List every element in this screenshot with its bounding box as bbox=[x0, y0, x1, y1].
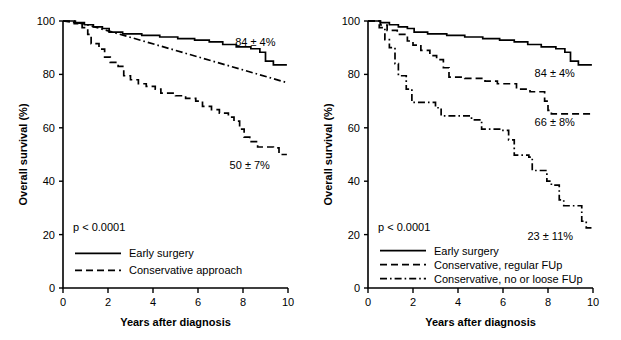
legend-label: Conservative, no or loose FUp bbox=[434, 273, 583, 285]
x-tick-label: 0 bbox=[365, 296, 371, 308]
survival-curve-0 bbox=[368, 21, 592, 65]
x-tick-label: 6 bbox=[195, 296, 201, 308]
legend: Early surgeryConservative, regular FUpCo… bbox=[380, 245, 583, 285]
legend-label: Early surgery bbox=[129, 247, 194, 259]
y-axis-title: Overall survival (%) bbox=[322, 103, 334, 205]
curve-endpoint-annotation: 50 ± 7% bbox=[230, 159, 271, 171]
y-tick-label: 100 bbox=[37, 15, 55, 27]
x-axis-title: Years after diagnosis bbox=[120, 316, 231, 328]
curve-endpoint-annotation: 66 ± 8% bbox=[535, 116, 576, 128]
y-tick-label: 0 bbox=[354, 282, 360, 294]
p-value-label: p < 0.0001 bbox=[378, 221, 430, 233]
y-axis-title: Overall survival (%) bbox=[17, 103, 29, 205]
survival-plot-right: 0204060801000246810Years after diagnosis… bbox=[310, 0, 620, 340]
y-axis-ticks: 020406080100 bbox=[342, 15, 368, 294]
curve-annotations: 84 ± 4%66 ± 8%23 ± 11% bbox=[527, 67, 575, 242]
y-tick-label: 60 bbox=[43, 122, 55, 134]
curve-annotations: 84 ± 4%50 ± 7% bbox=[230, 36, 276, 171]
y-axis-ticks: 020406080100 bbox=[37, 15, 63, 294]
y-tick-label: 100 bbox=[342, 15, 360, 27]
x-tick-label: 10 bbox=[587, 296, 599, 308]
y-tick-label: 20 bbox=[43, 229, 55, 241]
x-tick-label: 4 bbox=[455, 296, 461, 308]
legend: Early surgeryConservative approach bbox=[75, 247, 242, 276]
x-axis-title: Years after diagnosis bbox=[425, 316, 536, 328]
y-tick-label: 20 bbox=[348, 229, 360, 241]
x-tick-label: 0 bbox=[60, 296, 66, 308]
x-tick-label: 8 bbox=[545, 296, 551, 308]
curve-endpoint-annotation: 84 ± 4% bbox=[535, 67, 576, 79]
chart-panel-left: 0204060801000246810Years after diagnosis… bbox=[0, 0, 310, 340]
x-tick-label: 6 bbox=[500, 296, 506, 308]
legend-label: Early surgery bbox=[434, 245, 499, 257]
y-tick-label: 0 bbox=[49, 282, 55, 294]
x-tick-label: 2 bbox=[105, 296, 111, 308]
curve-endpoint-annotation: 84 ± 4% bbox=[235, 36, 276, 48]
legend-label: Conservative, regular FUp bbox=[434, 259, 562, 271]
x-tick-label: 8 bbox=[240, 296, 246, 308]
x-axis-ticks: 0246810 bbox=[365, 288, 599, 308]
survival-curve-2 bbox=[63, 21, 288, 83]
y-tick-label: 40 bbox=[43, 175, 55, 187]
chart-panel-right: 0204060801000246810Years after diagnosis… bbox=[310, 0, 620, 340]
y-tick-label: 80 bbox=[43, 68, 55, 80]
p-value-label: p < 0.0001 bbox=[73, 221, 125, 233]
x-tick-label: 10 bbox=[282, 296, 294, 308]
survival-figure: 0204060801000246810Years after diagnosis… bbox=[0, 0, 621, 340]
y-tick-label: 80 bbox=[348, 68, 360, 80]
x-tick-label: 2 bbox=[410, 296, 416, 308]
y-tick-label: 40 bbox=[348, 175, 360, 187]
survival-plot-left: 0204060801000246810Years after diagnosis… bbox=[0, 0, 310, 340]
curve-endpoint-annotation: 23 ± 11% bbox=[527, 230, 573, 242]
x-tick-label: 4 bbox=[150, 296, 156, 308]
legend-label: Conservative approach bbox=[129, 264, 242, 276]
y-tick-label: 60 bbox=[348, 122, 360, 134]
x-axis-ticks: 0246810 bbox=[60, 288, 294, 308]
